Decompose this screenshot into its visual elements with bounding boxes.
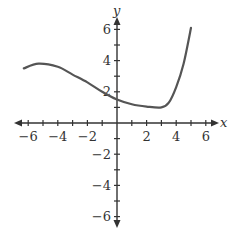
y-tick-label: −2 — [92, 147, 111, 162]
x-axis-label: x — [220, 115, 228, 130]
x-tick-label: −4 — [48, 129, 67, 144]
x-tick-label: −2 — [78, 129, 97, 144]
axes — [14, 17, 219, 228]
y-axis-label: y — [112, 3, 121, 18]
function-graph: −6−4−2246642−2−4−6 x y — [0, 0, 237, 240]
y-axis-down-arrow-icon — [114, 220, 121, 228]
y-tick-label: −4 — [92, 178, 111, 193]
x-axis-right-arrow-icon — [211, 120, 219, 127]
y-tick-label: 4 — [103, 53, 111, 68]
y-axis-up-arrow-icon — [114, 17, 121, 25]
x-tick-label: 4 — [172, 129, 180, 144]
y-tick-label: −6 — [92, 209, 111, 224]
x-axis-left-arrow-icon — [14, 120, 22, 127]
x-tick-label: 2 — [142, 129, 150, 144]
x-tick-label: 6 — [202, 129, 210, 144]
y-tick-label: 6 — [103, 22, 111, 37]
x-tick-label: −6 — [19, 129, 38, 144]
